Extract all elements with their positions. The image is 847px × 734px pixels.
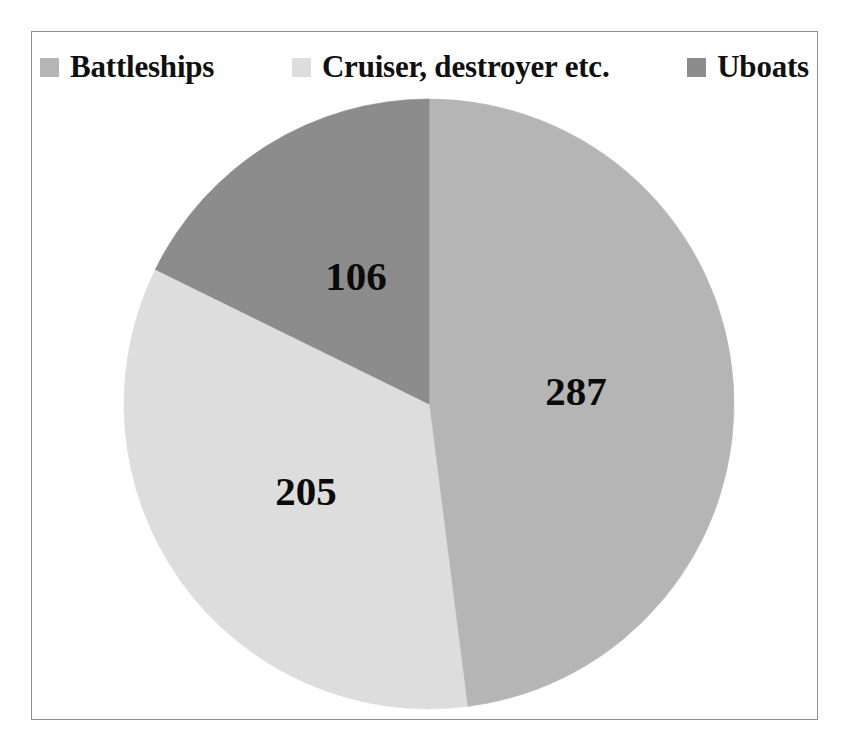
chart-legend: Battleships Cruiser, destroyer etc. Uboa… [32,40,819,94]
legend-swatch-battleships-icon [40,58,59,77]
pie-slice-uboats[interactable] [155,99,429,404]
pie-label-group: 287205106 [275,253,607,514]
legend-label-uboats: Uboats [717,50,809,84]
legend-swatch-cruiser-destroyer-icon [292,58,311,77]
pie-slice-uboats-value-label: 106 [325,253,387,299]
legend-item-cruiser-destroyer[interactable]: Cruiser, destroyer etc. [292,50,610,84]
legend-item-battleships[interactable]: Battleships [40,50,214,84]
legend-swatch-uboats-icon [687,58,706,77]
pie-slice-cruiser-destroyer-value-label: 205 [275,468,337,514]
legend-item-uboats[interactable]: Uboats [687,50,809,84]
pie-area: 287205106 [32,32,819,721]
legend-label-battleships: Battleships [70,50,214,84]
pie-chart-figure: Battleships Cruiser, destroyer etc. Uboa… [0,0,847,734]
legend-label-cruiser-destroyer: Cruiser, destroyer etc. [322,50,610,84]
pie-slice-battleships-value-label: 287 [545,368,607,414]
pie-slice-battleships[interactable] [429,99,734,707]
pie-svg: 287205106 [32,32,819,721]
pie-slice-group [124,99,734,709]
chart-plot-frame: Battleships Cruiser, destroyer etc. Uboa… [31,31,818,720]
pie-slice-cruiser-destroyer[interactable] [124,269,467,709]
